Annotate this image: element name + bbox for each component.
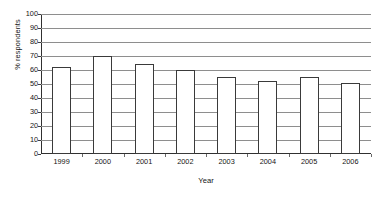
bar: [217, 77, 236, 154]
bar: [52, 67, 71, 154]
x-axis-title: Year: [41, 176, 371, 185]
y-axis-tickmark: [38, 28, 41, 29]
x-axis-tick-label: 2000: [95, 158, 111, 166]
gridline: [41, 84, 371, 85]
x-axis-tickmark: [82, 154, 83, 157]
bar: [258, 81, 277, 154]
y-axis-tick-label: 70: [16, 52, 38, 59]
bar: [93, 56, 112, 154]
x-axis-tickmark: [247, 154, 248, 157]
y-axis-tickmark: [38, 154, 41, 155]
y-axis-tickmark: [38, 14, 41, 15]
y-axis-tickmark: [38, 84, 41, 85]
y-axis-tick-label: 10: [16, 136, 38, 143]
x-axis-tick-labels: 19992000200120022003200420052006: [41, 158, 371, 170]
y-axis-tick-label: 80: [16, 38, 38, 45]
y-axis-tick-label: 30: [16, 108, 38, 115]
x-axis-tick-label: 2002: [177, 158, 193, 166]
x-axis-tick-label: 2004: [260, 158, 276, 166]
y-axis-tick-label: 60: [16, 66, 38, 73]
x-axis-tick-label: 2006: [342, 158, 358, 166]
gridline: [41, 98, 371, 99]
x-axis-tickmark: [124, 154, 125, 157]
gridline: [41, 140, 371, 141]
x-axis-tickmark: [371, 154, 372, 157]
y-axis-tick-label: 100: [16, 10, 38, 17]
x-axis-tickmark: [206, 154, 207, 157]
plot-area: [41, 14, 371, 154]
y-axis-tick-label: 90: [16, 24, 38, 31]
x-axis-tickmark: [289, 154, 290, 157]
gridline: [41, 56, 371, 57]
x-axis-tick-label: 1999: [54, 158, 70, 166]
y-axis-tickmark: [38, 42, 41, 43]
gridline: [41, 70, 371, 71]
x-axis-tickmark: [165, 154, 166, 157]
gridline: [41, 112, 371, 113]
x-axis-tickmark: [330, 154, 331, 157]
y-axis-tickmark: [38, 140, 41, 141]
y-axis-tick-label: 50: [16, 80, 38, 87]
y-axis-tickmark: [38, 112, 41, 113]
y-axis-tick-label: 0: [16, 150, 38, 157]
y-axis-tickmark: [38, 126, 41, 127]
bar: [300, 77, 319, 154]
x-axis-tick-label: 2003: [219, 158, 235, 166]
bar: [341, 83, 360, 154]
gridline: [41, 28, 371, 29]
gridline: [41, 126, 371, 127]
bar: [135, 64, 154, 154]
y-axis-tickmark: [38, 56, 41, 57]
y-axis-tickmark: [38, 70, 41, 71]
y-axis-tickmark: [38, 98, 41, 99]
x-axis-tick-label: 2005: [301, 158, 317, 166]
gridline: [41, 42, 371, 43]
y-axis-tick-labels: 0102030405060708090100: [16, 8, 38, 156]
y-axis-tick-label: 40: [16, 94, 38, 101]
y-axis-tick-label: 20: [16, 122, 38, 129]
gridline: [41, 14, 371, 15]
bar-chart: % respondents 0102030405060708090100 199…: [0, 0, 380, 200]
bar: [176, 70, 195, 154]
x-axis-tick-label: 2001: [136, 158, 152, 166]
